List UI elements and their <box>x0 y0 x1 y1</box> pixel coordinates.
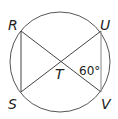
label-r: R <box>8 18 18 32</box>
label-s: S <box>8 97 17 111</box>
label-v: V <box>101 97 111 111</box>
angle-label: 60° <box>79 65 100 77</box>
label-t: T <box>55 67 64 81</box>
label-u: U <box>100 18 110 32</box>
